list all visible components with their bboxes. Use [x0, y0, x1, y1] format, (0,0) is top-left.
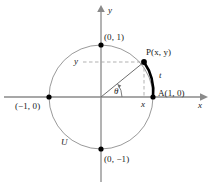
label-point-a: A(1, 0)	[158, 89, 185, 98]
y-axis-label: y	[108, 6, 112, 15]
label-circle-u: U	[61, 138, 68, 147]
label-arc-t: t	[159, 71, 162, 80]
label-leg-x: x	[141, 100, 145, 109]
label-point-left: (−1, 0)	[15, 102, 40, 111]
label-point-bottom: (0, −1)	[104, 155, 129, 164]
point-dot-p	[141, 59, 147, 65]
point-dot-right-a	[150, 94, 155, 99]
point-dot-bottom	[98, 146, 103, 151]
label-theta: θ	[114, 87, 119, 96]
label-point-p: P(x, y)	[146, 48, 171, 57]
point-dot-top	[98, 42, 103, 47]
y-axis-arrow-icon	[97, 5, 105, 12]
label-leg-y: y	[74, 57, 78, 66]
arc-length-t-path	[144, 62, 153, 97]
unit-circle-diagram: y x (0, 1) (−1, 0) (0, −1) A(1, 0) P(x, …	[0, 0, 216, 189]
radius-segment	[101, 62, 144, 97]
x-axis-label: x	[198, 101, 202, 110]
label-point-top: (0, 1)	[104, 33, 124, 42]
point-dot-left	[46, 94, 51, 99]
